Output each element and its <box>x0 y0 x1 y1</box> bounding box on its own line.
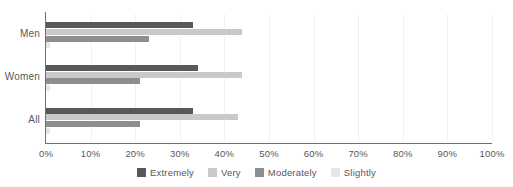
x-tick-100: 100% <box>479 148 504 159</box>
category-label-women: Women <box>0 71 40 82</box>
legend-item-slightly[interactable]: Slightly <box>331 167 376 178</box>
x-tick-10: 10% <box>81 148 101 159</box>
gridline <box>314 14 315 142</box>
category-label-men: Men <box>0 28 40 39</box>
legend-swatch-moderately <box>255 168 264 177</box>
bar-women-moderately <box>46 78 140 84</box>
bar-men-moderately <box>46 36 149 42</box>
x-tick-20: 20% <box>125 148 145 159</box>
legend-label-very: Very <box>221 167 241 178</box>
bar-men-very <box>46 29 242 35</box>
x-tick-0: 0% <box>39 148 53 159</box>
bar-women-very <box>46 72 242 78</box>
legend-item-moderately[interactable]: Moderately <box>255 167 317 178</box>
legend-label-moderately: Moderately <box>268 167 317 178</box>
legend-swatch-extremely <box>137 168 146 177</box>
bar-women-slightly <box>46 85 50 91</box>
gridline <box>492 14 493 142</box>
horizontal-bar-chart: 0%10%20%30%40%50%60%70%80%90%100% Extrem… <box>0 0 513 187</box>
bar-all-extremely <box>46 108 193 114</box>
legend-item-very[interactable]: Very <box>208 167 241 178</box>
gridline <box>403 14 404 142</box>
x-tick-30: 30% <box>170 148 190 159</box>
category-label-all: All <box>0 114 40 125</box>
bar-all-moderately <box>46 121 140 127</box>
gridline <box>269 14 270 142</box>
legend-item-extremely[interactable]: Extremely <box>137 167 194 178</box>
plot-area <box>46 14 492 142</box>
chart-title-strip <box>0 0 513 7</box>
bar-men-extremely <box>46 22 193 28</box>
legend-swatch-very <box>208 168 217 177</box>
x-tick-50: 50% <box>259 148 279 159</box>
x-tick-90: 90% <box>438 148 458 159</box>
x-tick-60: 60% <box>304 148 324 159</box>
bar-all-slightly <box>46 128 50 134</box>
x-axis-line <box>45 143 492 144</box>
chart-legend: ExtremelyVeryModeratelySlightly <box>0 167 513 178</box>
x-tick-70: 70% <box>348 148 368 159</box>
legend-label-extremely: Extremely <box>150 167 194 178</box>
x-tick-40: 40% <box>215 148 235 159</box>
legend-swatch-slightly <box>331 168 340 177</box>
bar-women-extremely <box>46 65 198 71</box>
bar-all-very <box>46 114 238 120</box>
bar-men-slightly <box>46 42 50 48</box>
gridline <box>358 14 359 142</box>
gridline <box>447 14 448 142</box>
legend-label-slightly: Slightly <box>344 167 376 178</box>
x-tick-80: 80% <box>393 148 413 159</box>
